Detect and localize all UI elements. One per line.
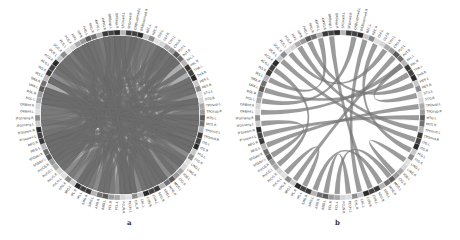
node-segment bbox=[256, 126, 262, 133]
node-segment bbox=[420, 115, 425, 121]
node-segment bbox=[199, 121, 205, 127]
node-label: ANG.L bbox=[101, 200, 107, 211]
node-label: ORBsup.R bbox=[114, 13, 119, 30]
node-segment bbox=[35, 103, 41, 109]
node-segment bbox=[198, 126, 204, 133]
node-segment bbox=[35, 115, 40, 121]
node-segment bbox=[340, 30, 346, 35]
node-segment bbox=[328, 194, 334, 200]
node-label: TPOsup.R bbox=[205, 109, 222, 114]
node-label: PCUN.R bbox=[121, 201, 125, 214]
node-label: SFGmed.R bbox=[347, 11, 353, 29]
node-segment bbox=[255, 109, 260, 115]
node-label: IFGtriang.R bbox=[236, 116, 255, 121]
node-label: ORBinf.R bbox=[20, 102, 35, 108]
node-label: PCL.L bbox=[334, 201, 338, 210]
node-label: IFGtriang.L bbox=[236, 122, 254, 128]
node-label: MTG.R bbox=[206, 122, 218, 127]
panel-label-a: a bbox=[127, 218, 132, 227]
node-segment bbox=[351, 31, 358, 37]
node-label: ROL.R bbox=[26, 89, 37, 95]
node-segment bbox=[200, 109, 205, 115]
node-label: IFGtriang.L bbox=[16, 122, 34, 128]
node-label: AMYG.R bbox=[101, 17, 107, 31]
node-label: ROL.L bbox=[25, 96, 35, 102]
node-segment bbox=[255, 121, 261, 127]
node-segment bbox=[419, 103, 425, 109]
node-segment bbox=[126, 30, 132, 36]
node-label: ROL.L bbox=[245, 96, 255, 102]
node-label: SMG.L bbox=[87, 196, 94, 207]
node-label: IPL.L bbox=[76, 191, 83, 200]
node-segment bbox=[346, 30, 352, 36]
node-label: CAL.L bbox=[140, 198, 146, 208]
node-label: SMA.L bbox=[248, 83, 259, 90]
node-label: PCL.R bbox=[108, 200, 113, 210]
node-label: CUN.R bbox=[366, 196, 373, 208]
node-label: ANG.L bbox=[321, 200, 327, 211]
chord-diagram-b: SFGmed.LSFGmed.RORBsupmed.LORBsupmed.RRE… bbox=[236, 7, 443, 214]
node-segment bbox=[35, 121, 41, 127]
node-segment bbox=[420, 109, 425, 115]
node-label: IPL.L bbox=[296, 191, 303, 200]
node-segment bbox=[198, 97, 204, 104]
node-label: IFGtriang.R bbox=[16, 116, 35, 121]
node-segment bbox=[36, 126, 42, 133]
node-segment bbox=[322, 193, 329, 199]
node-segment bbox=[200, 115, 205, 121]
node-segment bbox=[36, 97, 42, 104]
node-segment bbox=[120, 30, 126, 35]
chord-diagram-canvas: SFGmed.LSFGmed.RORBsupmed.LORBsupmed.RRE… bbox=[0, 0, 460, 240]
node-label: CAL.L bbox=[360, 198, 366, 208]
node-segment bbox=[418, 126, 424, 133]
node-label: ORBinf.L bbox=[240, 109, 254, 113]
node-label: ORBsup.L bbox=[327, 13, 333, 29]
node-label: SFGmed.L bbox=[121, 12, 126, 29]
node-label: ITG.L bbox=[201, 140, 210, 146]
node-label: ORBsup.R bbox=[334, 13, 339, 30]
node-segment bbox=[351, 193, 358, 199]
node-segment bbox=[114, 30, 120, 35]
node-label: PCUN.L bbox=[127, 201, 132, 213]
node-segment bbox=[334, 30, 340, 35]
node-segment bbox=[418, 97, 424, 104]
node-label: SMG.L bbox=[307, 196, 314, 207]
node-label: MTG.L bbox=[206, 116, 216, 120]
node-label: ANG.R bbox=[94, 198, 101, 210]
node-label: ITG.L bbox=[421, 140, 430, 146]
node-segment bbox=[108, 30, 114, 36]
node-label: CUN.R bbox=[146, 196, 153, 208]
node-label: TPOsup.L bbox=[205, 102, 221, 108]
chord-diagram-figure: SFGmed.LSFGmed.RORBsupmed.LORBsupmed.RRE… bbox=[0, 0, 460, 240]
node-segment bbox=[126, 194, 132, 200]
chord-group bbox=[41, 36, 199, 194]
node-label: STG.R bbox=[205, 96, 216, 102]
chord-diagram-a: SFGmed.LSFGmed.RORBsupmed.LORBsupmed.RRE… bbox=[16, 7, 223, 214]
node-segment bbox=[35, 109, 40, 115]
node-label: ORBinf.R bbox=[240, 102, 255, 108]
node-label: PCUN.L bbox=[347, 201, 352, 213]
node-label: MTG.R bbox=[426, 122, 438, 127]
node-label: PCUN.R bbox=[341, 201, 345, 214]
node-label: SFGmed.L bbox=[341, 12, 346, 29]
node-segment bbox=[199, 103, 205, 109]
node-label: STG.L bbox=[203, 89, 213, 95]
node-label: PCL.L bbox=[114, 201, 118, 210]
node-label: HES.R bbox=[421, 82, 432, 89]
node-segment bbox=[120, 195, 126, 200]
node-segment bbox=[328, 30, 334, 36]
node-label: STG.L bbox=[423, 89, 433, 95]
node-segment bbox=[102, 31, 109, 37]
node-label: ANG.R bbox=[314, 198, 321, 210]
node-label: STG.R bbox=[425, 96, 436, 102]
node-segment bbox=[346, 194, 352, 200]
node-label: TPOsup.R bbox=[425, 109, 442, 114]
panel-label-b: b bbox=[335, 218, 340, 227]
node-segment bbox=[255, 115, 260, 121]
node-segment bbox=[334, 195, 340, 200]
node-segment bbox=[322, 31, 329, 37]
node-label: ROL.R bbox=[246, 89, 257, 95]
node-label: CAL.R bbox=[134, 200, 140, 211]
node-label: SMA.L bbox=[28, 83, 39, 90]
node-label: MTG.L bbox=[426, 116, 436, 120]
